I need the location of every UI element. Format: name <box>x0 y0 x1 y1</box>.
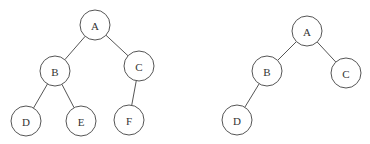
edge-a-c <box>317 42 336 62</box>
edge-b-e <box>62 84 74 107</box>
node-b: B <box>252 56 282 86</box>
edge-a-c <box>106 35 128 56</box>
node-label: A <box>303 26 311 38</box>
node-label: E <box>78 116 85 128</box>
node-a: A <box>292 16 322 46</box>
edge-a-b <box>65 36 85 59</box>
node-b: B <box>40 56 70 86</box>
node-label: C <box>135 61 142 73</box>
node-a: A <box>80 10 110 40</box>
node-d: D <box>11 106 41 136</box>
edge-b-d <box>245 84 259 107</box>
edge-a-b <box>278 42 297 61</box>
node-d: D <box>222 105 252 135</box>
node-c: C <box>331 58 361 88</box>
node-c: C <box>124 51 154 81</box>
node-f: F <box>114 105 144 135</box>
node-label: D <box>22 116 30 128</box>
right-tree: ABCD <box>222 16 361 135</box>
node-label: A <box>91 20 99 32</box>
edge-c-f <box>132 81 137 106</box>
node-label: B <box>263 66 270 78</box>
node-e: E <box>66 106 96 136</box>
node-label: F <box>126 115 132 127</box>
edge-b-d <box>34 84 48 108</box>
binary-trees-diagram: ABCDEFABCD <box>0 0 370 144</box>
node-label: C <box>342 68 349 80</box>
node-label: D <box>233 115 241 127</box>
node-label: B <box>51 66 58 78</box>
left-tree: ABCDEF <box>11 10 154 136</box>
